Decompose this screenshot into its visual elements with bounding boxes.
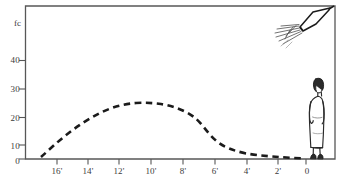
chart-canvas bbox=[0, 0, 343, 181]
wall-sconce-luminaire bbox=[275, 6, 334, 48]
standing-person-figure bbox=[309, 78, 324, 158]
plot-frame bbox=[26, 6, 336, 159]
illuminance-chart: fc 40 30 20 10 0 16' 14' 12' 10' 8' 6' 4… bbox=[0, 0, 343, 181]
y-axis-ticks bbox=[19, 61, 26, 160]
illuminance-curve bbox=[41, 103, 302, 158]
x-axis-ticks bbox=[57, 159, 306, 165]
